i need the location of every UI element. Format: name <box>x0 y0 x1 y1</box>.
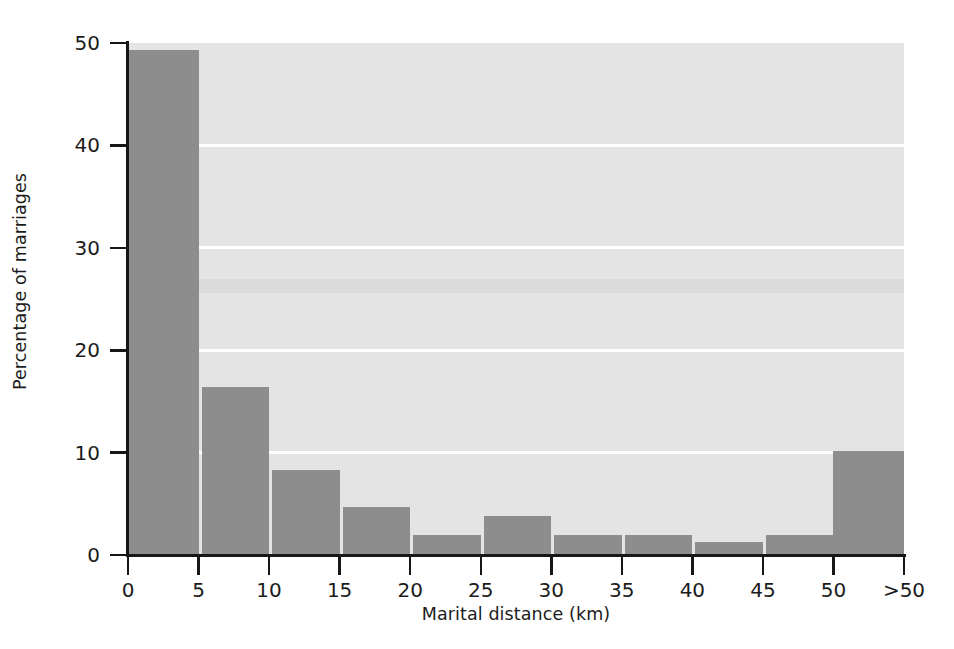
y-tick-label-50: 50 <box>38 31 100 55</box>
x-tick-35 <box>621 557 624 575</box>
x-tick-40 <box>691 557 694 575</box>
y-tick-30 <box>110 247 127 250</box>
x-tick-20 <box>409 557 412 575</box>
bar-20-25 <box>413 535 481 555</box>
y-tick-label-0: 0 <box>38 543 100 567</box>
plot-area <box>128 43 904 555</box>
x-tick-0 <box>127 557 130 575</box>
x-tick-label-50: 50 <box>793 578 873 602</box>
y-axis-title: Percentage of marriages <box>0 0 40 649</box>
x-axis-title: Marital distance (km) <box>128 604 904 624</box>
y-axis-title-text: Percentage of marriages <box>10 173 30 476</box>
bar-25-30 <box>484 516 552 555</box>
x-tick-label-10: 10 <box>229 578 309 602</box>
bar-0-5 <box>128 50 199 555</box>
y-axis-line <box>126 41 129 557</box>
x-tick-label-5: 5 <box>159 578 239 602</box>
bar->50 <box>833 451 904 555</box>
y-tick-10 <box>110 451 127 454</box>
x-tick-label-0: 0 <box>88 578 168 602</box>
bar-series <box>128 43 904 555</box>
x-tick-label-20: 20 <box>370 578 450 602</box>
y-tick-label-10: 10 <box>38 441 100 465</box>
y-tick-label-20: 20 <box>38 338 100 362</box>
x-tick-10 <box>268 557 271 575</box>
x-tick-5 <box>197 557 200 575</box>
x-tick-label-25: 25 <box>441 578 521 602</box>
x-tick-label-30: 30 <box>511 578 591 602</box>
bar-45-50 <box>766 535 834 555</box>
y-tick-40 <box>110 144 127 147</box>
x-tick-25 <box>480 557 483 575</box>
bar-30-35 <box>554 535 622 555</box>
y-tick-20 <box>110 349 127 352</box>
y-tick-50 <box>110 42 127 45</box>
bar-35-40 <box>625 535 693 555</box>
y-tick-label-40: 40 <box>38 133 100 157</box>
bar-40-45 <box>695 542 763 555</box>
bar-10-15 <box>272 470 340 555</box>
y-tick-label-30: 30 <box>38 236 100 260</box>
x-tick-label-45: 45 <box>723 578 803 602</box>
x-tick-label-15: 15 <box>300 578 380 602</box>
x-tick-label->50: >50 <box>864 578 944 602</box>
x-tick->50 <box>903 557 906 575</box>
x-tick-label-40: 40 <box>652 578 732 602</box>
y-tick-0 <box>110 554 127 557</box>
x-tick-45 <box>762 557 765 575</box>
x-tick-15 <box>338 557 341 575</box>
x-tick-label-35: 35 <box>582 578 662 602</box>
x-axis-line <box>126 554 906 557</box>
bar-5-10 <box>202 387 270 555</box>
histogram-figure: Percentage of marriages 01020304050 0510… <box>0 0 954 649</box>
bar-15-20 <box>343 507 411 555</box>
x-tick-30 <box>550 557 553 575</box>
x-tick-50 <box>832 557 835 575</box>
